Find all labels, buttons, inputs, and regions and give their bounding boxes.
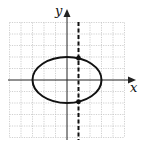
y-axis-arrow-icon [64,9,71,17]
ellipse-graph: x y [0,0,143,146]
x-axis-label: x [130,80,138,95]
intersection-point [76,99,81,104]
axes: x y [8,3,138,140]
y-axis-label: y [54,3,63,18]
intersection-point [76,56,81,61]
